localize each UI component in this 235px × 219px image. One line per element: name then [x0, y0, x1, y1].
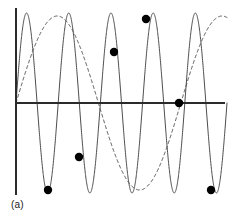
sample-point-4	[142, 15, 150, 23]
sample-point-5	[175, 99, 183, 107]
aliasing-plot	[0, 0, 235, 219]
sample-point-6	[207, 186, 215, 194]
plot-area	[16, 8, 227, 195]
sample-point-1	[44, 186, 52, 194]
sample-point-2	[75, 153, 83, 161]
figure-caption-label: (a)	[11, 199, 24, 211]
figure-container: (a)	[0, 0, 235, 219]
sample-point-3	[110, 48, 118, 56]
